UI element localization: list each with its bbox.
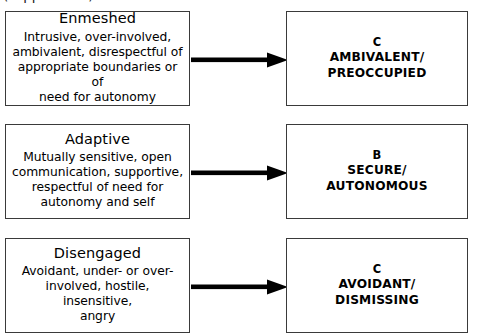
- target-box-avoidant-dismissing: C AVOIDANT/ DISMISSING: [286, 238, 468, 333]
- source-box-disengaged: Disengaged Avoidant, under- or over- inv…: [5, 238, 190, 333]
- target-box-code: B: [373, 148, 382, 163]
- target-box-code: C: [373, 35, 382, 50]
- diagram-row-adaptive: Adaptive Mutually sensitive, open commun…: [0, 124, 477, 219]
- target-box-code: C: [373, 262, 382, 277]
- clipped-heading-text: (clipped text): [0, 0, 250, 3]
- arrow-right-icon: [191, 165, 289, 181]
- arrow-right-icon: [191, 52, 289, 68]
- source-box-description: Intrusive, over-involved, ambivalent, di…: [12, 30, 183, 105]
- target-box-label: AVOIDANT/ DISMISSING: [335, 277, 419, 308]
- source-box-description: Mutually sensitive, open communication, …: [12, 150, 183, 210]
- target-box-secure-autonomous: B SECURE/ AUTONOMOUS: [286, 124, 468, 219]
- target-box-ambivalent-preoccupied: C AMBIVALENT/ PREOCCUPIED: [286, 11, 468, 106]
- source-box-adaptive: Adaptive Mutually sensitive, open commun…: [5, 124, 190, 219]
- source-box-enmeshed: Enmeshed Intrusive, over-involved, ambiv…: [5, 11, 190, 106]
- source-box-description: Avoidant, under- or over- involved, host…: [12, 264, 183, 324]
- diagram-row-disengaged: Disengaged Avoidant, under- or over- inv…: [0, 238, 477, 333]
- target-box-label: AMBIVALENT/ PREOCCUPIED: [328, 50, 427, 81]
- source-box-title: Enmeshed: [59, 10, 136, 27]
- source-box-title: Adaptive: [65, 131, 130, 148]
- diagram-row-enmeshed: Enmeshed Intrusive, over-involved, ambiv…: [0, 11, 477, 106]
- target-box-label: SECURE/ AUTONOMOUS: [326, 163, 427, 194]
- arrow-right-icon: [191, 279, 289, 295]
- source-box-title: Disengaged: [54, 245, 141, 262]
